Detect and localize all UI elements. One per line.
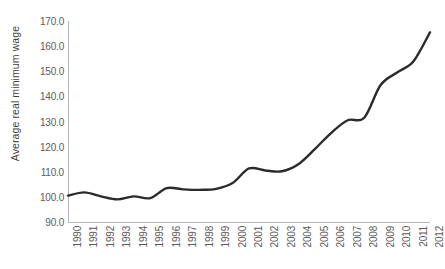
- x-tick-label: 2007: [352, 226, 363, 247]
- y-tick-label: 100.0: [40, 191, 64, 202]
- y-tick-label: 140.0: [40, 91, 64, 102]
- line-series-path: [68, 32, 430, 199]
- x-tick-label: 2000: [237, 226, 248, 247]
- x-tick-label: 2009: [385, 226, 396, 247]
- y-axis-tick-labels: 170.0160.0150.0140.0130.0120.0110.0100.0…: [24, 16, 66, 224]
- x-tick-label: 1995: [154, 226, 165, 247]
- x-axis-line: [68, 222, 430, 223]
- x-tick-label: 2003: [286, 226, 297, 247]
- line-series-svg: [68, 21, 430, 222]
- x-tick-label: 1997: [187, 226, 198, 247]
- x-tick-label: 2011: [418, 226, 429, 247]
- x-tick-label: 2006: [335, 226, 346, 247]
- x-tick-label: 1990: [72, 226, 83, 247]
- x-tick-label: 1998: [204, 226, 215, 247]
- y-tick-label: 150.0: [40, 66, 64, 77]
- y-tick-label: 120.0: [40, 141, 64, 152]
- y-tick-label: 130.0: [40, 116, 64, 127]
- x-tick-label: 1993: [121, 226, 132, 247]
- x-tick-label: 1996: [171, 226, 182, 247]
- x-axis-tick-labels: 1990199119921993199419951996199719981999…: [68, 224, 430, 269]
- x-tick-label: 1991: [88, 226, 99, 247]
- y-tick-label: 110.0: [41, 166, 64, 177]
- x-tick-label: 2004: [302, 226, 313, 247]
- y-tick-label: 160.0: [40, 41, 64, 52]
- y-tick-label: 90.0: [45, 217, 64, 228]
- x-tick-label: 2001: [253, 226, 264, 247]
- x-tick-label: 2012: [434, 226, 445, 247]
- x-tick-label: 1999: [220, 226, 231, 247]
- y-tick-label: 170.0: [40, 16, 64, 27]
- x-tick-label: 2005: [319, 226, 330, 247]
- x-tick-label: 1992: [105, 226, 116, 247]
- x-tick-label: 1994: [138, 226, 149, 247]
- plot-area: [68, 21, 430, 222]
- x-tick-label: 2008: [368, 226, 379, 247]
- x-tick-label: 2010: [401, 226, 412, 247]
- x-tick-label: 2002: [269, 226, 280, 247]
